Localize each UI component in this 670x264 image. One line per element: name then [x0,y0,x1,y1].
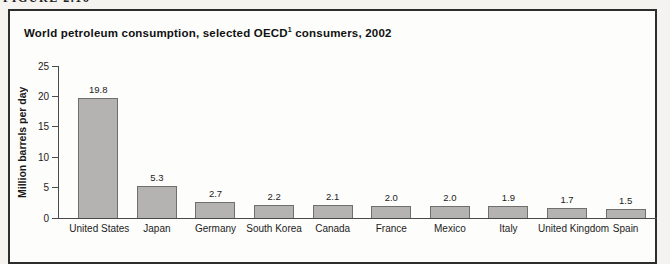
bar [547,208,587,218]
bar [488,206,528,218]
y-tick-mark [52,187,59,188]
figure-label-text: FIGURE 2.16 [3,0,123,6]
chart-title-prefix: World petroleum consumption, selected OE… [24,27,288,39]
x-axis-category-label: United Kingdom [538,223,596,234]
y-tick-label: 10 [19,152,49,163]
x-axis-category-label: South Korea [245,223,303,234]
bar-value-label: 1.9 [502,192,515,203]
bar-slot: 1.5 [597,195,655,218]
y-tick-label: 5 [19,182,49,193]
bar-value-label: 2.0 [443,192,456,203]
chart-title-suffix: consumers, 2002 [292,27,392,39]
bar-slot: 1.9 [479,192,537,218]
bar-slot: 2.7 [186,188,244,218]
bar-slot: 1.7 [538,194,596,218]
bar-slot: 2.0 [421,192,479,218]
figure-label: FIGURE 2.16 [3,0,123,6]
bar [254,205,294,218]
x-axis-category-label: Canada [304,223,362,234]
bar [137,186,177,218]
bar-value-label: 1.5 [619,195,632,206]
bar-slot: 2.0 [362,192,420,218]
bar-value-label: 5.3 [150,172,163,183]
y-tick-label: 25 [19,61,49,72]
x-axis-category-label: France [362,223,420,234]
x-axis-category-label: Italy [479,223,537,234]
bar [313,205,353,218]
bar-value-label: 2.7 [209,188,222,199]
bars: 19.85.32.72.22.12.02.01.91.71.5 [69,66,655,218]
y-tick-label: 0 [19,213,49,224]
bar-slot: 2.2 [245,191,303,218]
y-tick-mark [52,126,59,127]
x-axis-category-label: United States [69,223,127,234]
x-axis-category-label: Germany [186,223,244,234]
bar-slot: 5.3 [128,172,186,218]
x-axis-category-label: Japan [128,223,186,234]
bar [430,206,470,218]
bar-value-label: 1.7 [560,194,573,205]
x-axis-category-label: Mexico [421,223,479,234]
y-axis-title: Million barrels per day [16,66,32,218]
chart-title: World petroleum consumption, selected OE… [24,27,392,39]
bar [78,98,118,218]
y-tick-label: 20 [19,91,49,102]
plot-area: 19.85.32.72.22.12.02.01.91.71.5 United S… [58,66,657,219]
y-tick-label: 15 [19,121,49,132]
bar-value-label: 2.2 [267,191,280,202]
bar [195,202,235,218]
y-tick-mark [52,96,59,97]
y-tick-mark [52,66,59,67]
y-tick-mark [52,218,59,219]
bar [371,206,411,218]
y-tick-mark [52,157,59,158]
bar-slot: 19.8 [69,84,127,218]
x-labels: United StatesJapanGermanySouth KoreaCana… [69,223,655,234]
bar-value-label: 19.8 [89,84,108,95]
bar [606,209,646,218]
bar-value-label: 2.0 [385,192,398,203]
x-axis-category-label: Spain [597,223,655,234]
chart-frame: World petroleum consumption, selected OE… [8,9,657,264]
bar-slot: 2.1 [304,191,362,218]
bar-value-label: 2.1 [326,191,339,202]
